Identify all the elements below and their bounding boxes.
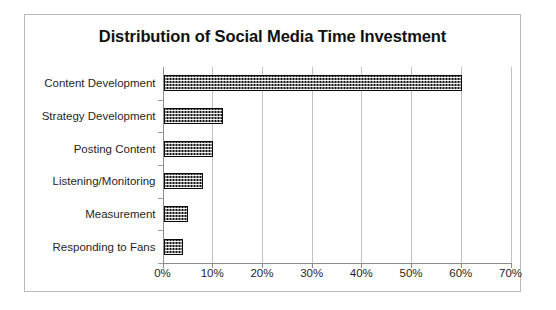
y-tick-mark [158,263,163,264]
gridline [461,67,462,263]
y-tick-mark [158,198,163,199]
category-axis-line [163,263,511,264]
value-axis-line [163,67,164,263]
gridline [312,67,313,263]
category-label: Listening/Monitoring [53,175,156,187]
bar[interactable] [164,108,224,124]
y-tick-mark [158,132,163,133]
x-tick-label: 0% [154,267,171,279]
bar[interactable] [164,141,214,157]
y-tick-mark [158,100,163,101]
chart-title: Distribution of Social Media Time Invest… [25,27,520,46]
gridline [262,67,263,263]
x-tick-label: 50% [400,267,423,279]
category-label: Content Development [44,77,155,89]
y-tick-mark [158,165,163,166]
category-label: Strategy Development [42,110,156,122]
x-tick-label: 60% [449,267,472,279]
x-tick-label: 20% [250,267,273,279]
category-label: Responding to Fans [53,241,156,253]
x-tick-label: 10% [201,267,224,279]
category-label: Measurement [85,208,155,220]
chart-frame: Distribution of Social Media Time Invest… [24,14,521,292]
bar[interactable] [164,75,462,91]
gridline [212,67,213,263]
bar[interactable] [164,206,189,222]
bar[interactable] [164,173,204,189]
x-tick-label: 40% [350,267,373,279]
category-label: Posting Content [74,143,156,155]
plot-area: 0%10%20%30%40%50%60%70%Content Developme… [163,67,511,263]
gridline [411,67,412,263]
gridline [361,67,362,263]
y-tick-mark [158,230,163,231]
x-tick-label: 30% [300,267,323,279]
x-tick-label: 70% [499,267,522,279]
gridline [511,67,512,263]
bar[interactable] [164,239,184,255]
